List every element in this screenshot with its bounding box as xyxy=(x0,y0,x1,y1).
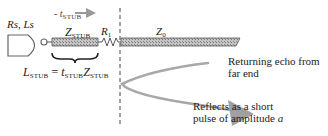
resistor-icon xyxy=(98,38,121,46)
echo-annotation: Returning echo from far end xyxy=(228,55,320,79)
amplitude-variable: a xyxy=(278,112,284,124)
stub-label-main: Z xyxy=(65,25,72,39)
driver-gate-icon xyxy=(8,35,52,56)
reflect-line-2: pulse of amplitude a xyxy=(193,112,283,124)
echo-line-1: Returning echo from xyxy=(228,55,320,67)
main-line xyxy=(121,38,240,46)
time-label-main: - t xyxy=(54,8,63,19)
resistor-label-main: R xyxy=(101,25,108,37)
eq-equals: = xyxy=(51,65,58,79)
stub-inductance-equation: LSTUB = tSTUBZSTUB xyxy=(23,66,109,80)
eq-lhs: L xyxy=(23,65,30,79)
eq-z: Z xyxy=(83,65,90,79)
resistor-label: R1 xyxy=(101,26,111,39)
time-arrow-label: - tSTUB xyxy=(54,9,81,21)
source-label: Rs, Ls xyxy=(7,19,34,30)
stub-label-sub: STUB xyxy=(72,32,91,40)
source-label-text: Rs, Ls xyxy=(7,18,34,30)
resistor-label-sub: 1 xyxy=(108,31,112,39)
eq-lhs-sub: STUB xyxy=(30,72,49,80)
time-label-sub: STUB xyxy=(63,13,82,21)
reflect-line-2-text: pulse of amplitude xyxy=(193,112,278,124)
reflect-line-1: Reflects as a short xyxy=(193,100,283,112)
eq-z-sub: STUB xyxy=(90,72,109,80)
stub-impedance-label: ZSTUB xyxy=(65,26,90,40)
line-impedance-label: Z0 xyxy=(156,26,166,39)
eq-t-sub: STUB xyxy=(65,72,84,80)
echo-line-2: far end xyxy=(228,67,320,79)
line-label-sub: 0 xyxy=(162,31,166,39)
reflect-annotation: Reflects as a short pulse of amplitude a xyxy=(193,100,283,124)
stub-brace-icon xyxy=(52,53,98,63)
